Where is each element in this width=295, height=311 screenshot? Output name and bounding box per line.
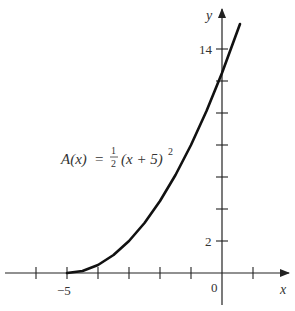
y-axis-label: y [204,8,213,23]
svg-text:(x + 5): (x + 5) [121,151,163,168]
y-tick-label-14: 14 [199,42,213,57]
svg-text:2: 2 [168,146,173,157]
curve-A [67,24,240,273]
x-axis-label: x [279,282,287,297]
svg-text:1: 1 [111,145,116,156]
svg-text:A(x): A(x) [60,151,87,168]
function-annotation: A(x) = 1 2 (x + 5) 2 [60,145,173,169]
y-tick-label-2: 2 [205,234,212,249]
svg-text:2: 2 [111,158,116,169]
chart: −5 0 2 14 x y A(x) = 1 2 (x + 5) 2 [0,0,295,311]
x-tick-label-neg5: −5 [57,283,71,298]
svg-text:=: = [95,151,103,167]
x-tick-label-0: 0 [211,280,218,295]
